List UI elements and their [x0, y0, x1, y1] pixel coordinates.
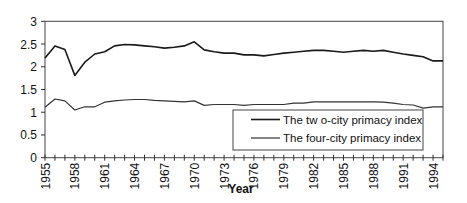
y-tick-label: 2	[30, 60, 37, 74]
series-two-city-line	[45, 42, 443, 76]
series-lines	[45, 42, 443, 110]
legend-label-four-city: The four-city primacy index	[283, 132, 421, 144]
y-tick-label: 0.5	[20, 128, 37, 142]
y-tick-label: 2.5	[20, 38, 37, 52]
legend-label-two-city: The tw o-city primacy index	[283, 114, 423, 126]
x-tick-label: 1964	[128, 162, 142, 189]
x-tick-label: 1958	[68, 162, 82, 189]
x-tick-label: 1967	[158, 162, 172, 189]
line-chart: 00.511.522.53 19551958196119641967197019…	[0, 0, 467, 203]
x-tick-label: 1961	[98, 162, 112, 189]
x-tick-label: 1979	[277, 162, 291, 189]
y-axis: 00.511.522.53	[20, 15, 45, 165]
y-tick-label: 1	[30, 106, 37, 120]
y-tick-label: 1.5	[20, 83, 37, 97]
x-axis-label: Year	[228, 182, 254, 196]
x-tick-label: 1982	[307, 162, 321, 189]
x-tick-label: 1970	[188, 162, 202, 189]
x-tick-label: 1988	[367, 162, 381, 189]
series-four-city-line	[45, 99, 443, 110]
y-tick-label: 3	[30, 15, 37, 29]
legend: The tw o-city primacy index The four-cit…	[233, 110, 423, 150]
x-tick-label: 1991	[397, 162, 411, 189]
x-tick-label: 1994	[427, 162, 441, 189]
x-tick-label: 1985	[337, 162, 351, 189]
x-tick-label: 1955	[39, 162, 53, 189]
y-tick-label: 0	[30, 151, 37, 165]
